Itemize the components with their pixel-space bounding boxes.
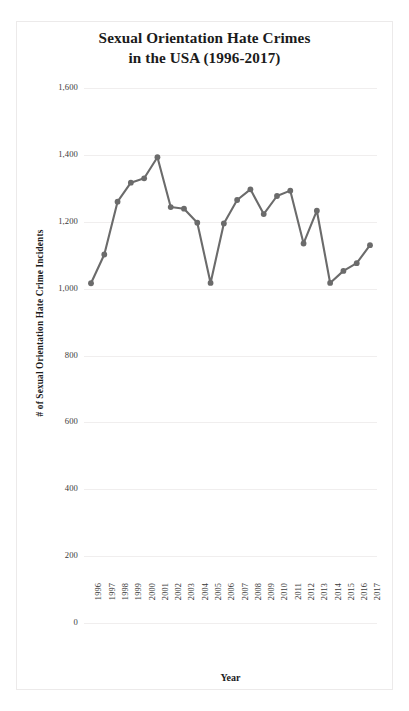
data-point-2003 (181, 206, 187, 212)
data-point-2015 (341, 268, 347, 274)
data-point-2004 (194, 220, 200, 226)
data-point-2009 (261, 211, 267, 217)
chart-page: Sexual Orientation Hate Crimes in the US… (0, 0, 409, 711)
data-point-2002 (168, 204, 174, 210)
data-point-2014 (327, 280, 333, 286)
data-point-2007 (234, 197, 240, 203)
data-point-2001 (155, 154, 161, 160)
data-point-2006 (221, 221, 227, 227)
data-point-2011 (287, 188, 293, 194)
plot-area: 1,6001,4001,2001,0008006004002000 # of S… (0, 0, 409, 711)
data-point-1997 (101, 252, 107, 258)
data-point-2000 (141, 175, 147, 181)
data-point-2012 (301, 241, 307, 247)
data-point-2017 (367, 242, 373, 248)
data-point-1996 (88, 280, 94, 286)
data-point-1998 (115, 199, 121, 205)
series-polyline (91, 157, 370, 283)
data-point-1999 (128, 180, 134, 186)
data-series-line (0, 0, 409, 711)
data-point-2008 (248, 186, 254, 192)
series-markers (88, 154, 373, 286)
data-point-2005 (208, 280, 214, 286)
data-point-2016 (354, 260, 360, 266)
data-point-2013 (314, 208, 320, 214)
data-point-2010 (274, 193, 280, 199)
